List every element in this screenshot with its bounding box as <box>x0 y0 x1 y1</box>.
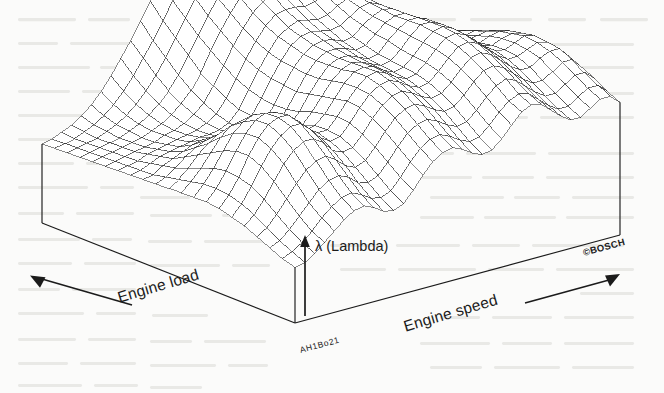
engine-speed-right-arrow-icon <box>523 272 621 306</box>
lambda-surface-plot <box>0 0 664 393</box>
figure-canvas: λ (Lambda) Engine load Engine speed ©BOS… <box>0 0 664 393</box>
lambda-axis-label: λ (Lambda) <box>315 238 388 254</box>
